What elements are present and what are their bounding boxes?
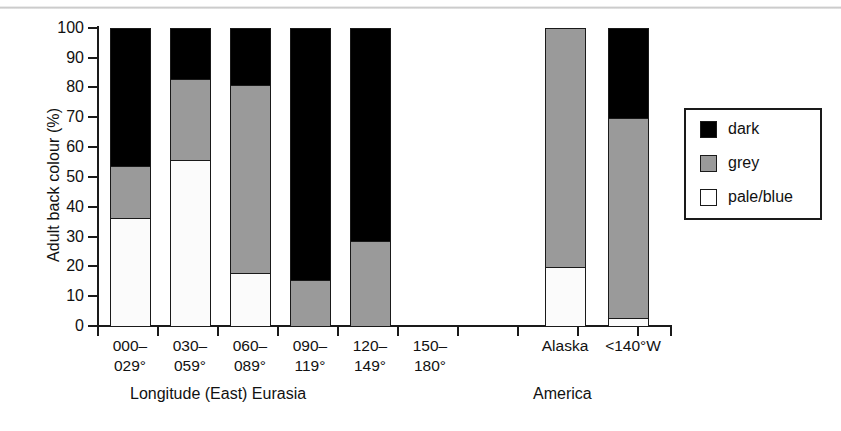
y-tick-label-80: 80 — [42, 79, 84, 95]
y-tick-10 — [88, 295, 98, 297]
y-tick-label-40: 40 — [42, 199, 84, 215]
y-tick-label-60: 60 — [42, 139, 84, 155]
bar-030-059-segment-dark — [170, 28, 211, 80]
x-axis-title-america: America — [533, 385, 592, 403]
legend-label-dark: dark — [728, 120, 759, 138]
bar-alaska-segment-grey — [545, 28, 586, 268]
chart-root: Adult back colour (%) 100 90 80 70 60 50… — [0, 0, 841, 431]
bar-000-029-segment-pale — [110, 218, 151, 327]
plot-area: Adult back colour (%) 100 90 80 70 60 50… — [0, 0, 841, 431]
y-tick-70 — [88, 116, 98, 118]
bar-090-119-segment-grey — [290, 280, 331, 328]
y-tick-40 — [88, 206, 98, 208]
bar-060-089-segment-pale — [230, 272, 271, 327]
y-tick-20 — [88, 265, 98, 267]
y-tick-30 — [88, 236, 98, 238]
y-tick-label-100: 100 — [42, 20, 84, 36]
legend: dark grey pale/blue — [684, 108, 822, 220]
x-axis-title-eurasia: Longitude (East) Eurasia — [130, 385, 306, 403]
legend-swatch-grey-icon — [700, 155, 717, 172]
legend-swatch-dark-icon — [700, 121, 717, 138]
y-tick-label-70: 70 — [42, 109, 84, 125]
bar-090-119-segment-dark — [290, 28, 331, 281]
bar-060-089-segment-grey — [230, 84, 271, 274]
x-tick-4 — [337, 327, 339, 336]
y-tick-label-10: 10 — [42, 288, 84, 304]
y-tick-label-20: 20 — [42, 258, 84, 274]
y-tick-80 — [88, 86, 98, 88]
legend-item-dark[interactable]: dark — [700, 120, 759, 138]
legend-label-pale: pale/blue — [728, 188, 793, 206]
x-tick-6 — [457, 327, 459, 336]
legend-label-grey: grey — [728, 154, 759, 172]
y-tick-label-90: 90 — [42, 50, 84, 66]
y-tick-label-0: 0 — [42, 318, 84, 334]
x-label-140w: <140°W — [591, 336, 675, 356]
y-tick-100 — [88, 27, 98, 29]
y-tick-90 — [88, 57, 98, 59]
legend-item-grey[interactable]: grey — [700, 154, 759, 172]
x-tick-8 — [577, 327, 579, 336]
bar-140w-segment-grey — [608, 117, 649, 319]
x-tick-10 — [670, 327, 672, 336]
bar-030-059-segment-pale — [170, 160, 211, 327]
x-tick-9 — [637, 327, 639, 336]
bar-000-029-segment-grey — [110, 166, 151, 220]
y-tick-60 — [88, 146, 98, 148]
x-tick-2 — [217, 327, 219, 336]
y-tick-label-50: 50 — [42, 169, 84, 185]
bar-120-149-segment-dark — [350, 28, 391, 242]
x-label-150-180: 150– 180° — [388, 336, 472, 376]
y-tick-50 — [88, 176, 98, 178]
x-tick-0 — [97, 327, 99, 336]
bar-140w-segment-dark — [608, 28, 649, 119]
x-tick-3 — [277, 327, 279, 336]
y-tick-label-30: 30 — [42, 229, 84, 245]
bar-030-059-segment-grey — [170, 78, 211, 161]
x-tick-5 — [397, 327, 399, 336]
bar-000-029-segment-dark — [110, 28, 151, 167]
x-tick-1 — [157, 327, 159, 336]
legend-item-pale[interactable]: pale/blue — [700, 188, 793, 206]
legend-swatch-pale-icon — [700, 189, 717, 206]
x-tick-7 — [517, 327, 519, 336]
bar-120-149-segment-grey — [350, 241, 391, 327]
bar-060-089-segment-dark — [230, 28, 271, 86]
bar-alaska-segment-pale — [545, 266, 586, 327]
